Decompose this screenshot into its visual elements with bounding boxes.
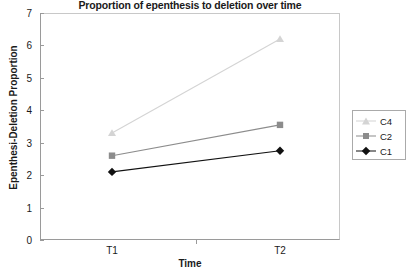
y-tick-label: 2 <box>18 170 32 181</box>
plot-area <box>40 13 340 240</box>
y-axis-title: Epenthesi-Deletion Proportion <box>8 23 19 213</box>
x-tick-mark-center <box>196 240 197 244</box>
y-tick-mark <box>40 175 44 176</box>
y-tick-label: 3 <box>18 137 32 148</box>
chart-legend: C4C2C1 <box>352 110 406 160</box>
y-tick-label: 5 <box>18 72 32 83</box>
legend-swatch-C2 <box>355 130 377 142</box>
y-tick-mark <box>40 110 44 111</box>
legend-item-C4[interactable]: C4 <box>355 114 405 128</box>
legend-label: C4 <box>380 116 392 127</box>
legend-label: C1 <box>380 146 392 157</box>
y-tick-label: 6 <box>18 40 32 51</box>
legend-item-C2[interactable]: C2 <box>355 129 405 143</box>
y-tick-label: 4 <box>18 105 32 116</box>
y-tick-mark <box>40 143 44 144</box>
x-tick-label: T2 <box>274 245 286 256</box>
legend-swatch-C4 <box>355 115 377 127</box>
x-axis-title: Time <box>40 258 340 269</box>
legend-label: C2 <box>380 131 392 142</box>
y-tick-mark <box>40 45 44 46</box>
legend-item-C1[interactable]: C1 <box>355 144 405 158</box>
y-tick-mark <box>40 208 44 209</box>
x-tick-label: T1 <box>106 245 118 256</box>
legend-swatch-C1 <box>355 145 377 157</box>
legend-marker-triangle-icon <box>362 118 370 125</box>
y-tick-mark <box>40 13 44 14</box>
legend-marker-diamond-icon <box>362 147 370 155</box>
y-tick-label: 0 <box>18 235 32 246</box>
legend-marker-square-icon <box>363 133 369 139</box>
chart-title: Proportion of epenthesis to deletion ove… <box>40 0 340 11</box>
y-tick-mark <box>40 78 44 79</box>
y-tick-label: 7 <box>18 8 32 19</box>
chart-container: Proportion of epenthesis to deletion ove… <box>0 0 410 277</box>
y-tick-label: 1 <box>18 202 32 213</box>
y-tick-mark <box>40 240 44 241</box>
